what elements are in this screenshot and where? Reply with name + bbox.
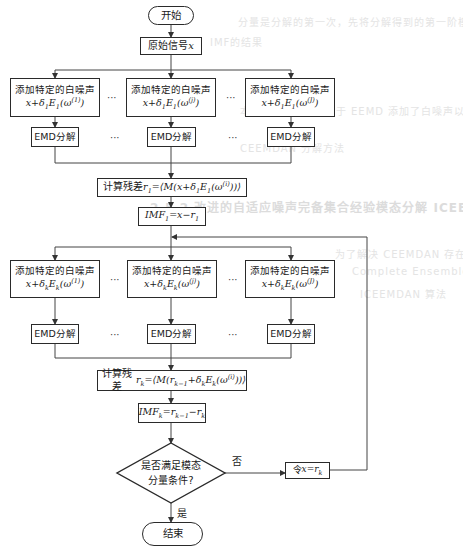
noise-formula: x+δkEk(ω(j)) [144, 277, 200, 292]
noise-box-stagek-last: 添加特定的白噪声 x+δkEk(ω(J)) [245, 260, 335, 298]
update-formula: x=rk [302, 464, 323, 477]
input-label: 原始信号 [148, 40, 188, 53]
update-label: 令 [293, 465, 302, 476]
emd-box-stagek-middle: EMD分解 [147, 324, 196, 344]
noise-label: 添加特定的白噪声 [15, 265, 95, 277]
noise-formula: x+δ1E1(ω(1)) [26, 96, 85, 111]
start-terminal: 开始 [148, 6, 194, 25]
end-terminal: 结束 [142, 522, 203, 546]
residual-box-stage1: 计算残差r1=⟨M(x+δ1E1(ω(i)))⟩ [97, 178, 247, 197]
noise-box-stage1-first: 添加特定的白噪声 x+δ1E1(ω(1)) [10, 78, 100, 117]
emd-label: EMD分解 [34, 328, 76, 340]
noise-label: 添加特定的白噪声 [132, 265, 212, 277]
noise-label: 添加特定的白噪声 [250, 265, 330, 277]
noise-box-stage1-last: 添加特定的白噪声 x+δ1E1(ω(J)) [245, 78, 335, 117]
emd-box-stagek-first: EMD分解 [31, 324, 79, 344]
noise-label: 添加特定的白噪声 [131, 84, 211, 96]
imf-box-stage1: IMF1=x−r1 [138, 207, 206, 226]
ellipsis: ··· [228, 274, 238, 285]
decision-line2: 分量条件? [131, 474, 211, 489]
ellipsis: ··· [107, 92, 117, 103]
emd-label: EMD分解 [270, 131, 312, 143]
update-x-box: 令x=rk [285, 462, 330, 479]
ellipsis: ··· [110, 132, 120, 143]
ellipsis: ··· [228, 329, 238, 340]
no-branch-label: 否 [232, 453, 242, 468]
emd-box-stage1-first: EMD分解 [31, 127, 79, 147]
decision-line1: 是否满足模态 [131, 459, 211, 474]
noise-label: 添加特定的白噪声 [15, 84, 95, 96]
imf-box-stagek: IMFk=rk−1−rk [138, 403, 206, 423]
noise-box-stagek-middle: 添加特定的白噪声 x+δkEk(ω(j)) [127, 260, 217, 298]
imf-formula: IMFk=rk−1−rk [139, 406, 206, 420]
emd-label: EMD分解 [34, 131, 76, 143]
noise-formula: x+δ1E1(ω(j)) [143, 96, 200, 111]
emd-label: EMD分解 [151, 328, 193, 340]
noise-box-stage1-middle: 添加特定的白噪声 x+δ1E1(ω(j)) [126, 78, 216, 117]
ellipsis: ··· [110, 329, 120, 340]
noise-label: 添加特定的白噪声 [250, 84, 330, 96]
end-label: 结束 [163, 527, 183, 540]
residual-formula: rk=⟨M(rk−1+δkEk(ω(i)))⟩ [136, 373, 246, 388]
emd-box-stagek-last: EMD分解 [267, 324, 315, 344]
noise-formula: x+δkEk(ω(J)) [262, 277, 319, 292]
noise-formula: x+δ1E1(ω(J)) [261, 96, 318, 111]
yes-branch-label: 是 [177, 505, 187, 520]
emd-label: EMD分解 [151, 131, 193, 143]
emd-box-stage1-middle: EMD分解 [147, 127, 196, 147]
noise-box-stagek-first: 添加特定的白噪声 x+δkEk(ω(1)) [10, 260, 100, 298]
input-var: x [188, 40, 194, 53]
ellipsis: ··· [228, 132, 238, 143]
residual-box-stagek: 计算残差rk=⟨M(rk−1+δkEk(ω(i)))⟩ [97, 370, 247, 391]
input-signal-box: 原始信号x [140, 37, 202, 55]
residual-label: 计算残差 [98, 368, 136, 393]
imf-formula: IMF1=x−r1 [145, 209, 199, 223]
decision-text: 是否满足模态 分量条件? [131, 459, 211, 488]
emd-box-stage1-last: EMD分解 [267, 127, 315, 147]
ellipsis: ··· [226, 92, 236, 103]
residual-formula: r1=⟨M(x+δ1E1(ω(i)))⟩ [143, 180, 241, 195]
noise-formula: x+δkEk(ω(1)) [26, 277, 84, 292]
emd-label: EMD分解 [270, 328, 312, 340]
ellipsis: ··· [110, 274, 120, 285]
start-label: 开始 [161, 9, 181, 22]
residual-label: 计算残差 [103, 181, 143, 194]
